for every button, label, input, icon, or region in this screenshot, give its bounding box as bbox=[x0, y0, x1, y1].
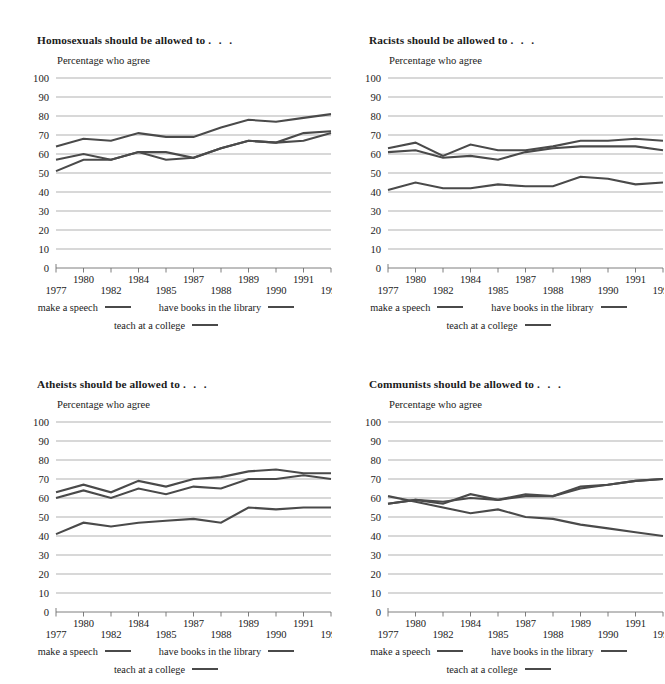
legend-row-primary: make a speechhave books in the library bbox=[332, 298, 665, 316]
x-axis-tick-label: 1984 bbox=[460, 274, 482, 285]
legend-line-swatch-icon bbox=[437, 650, 463, 653]
y-axis-tick-label: 90 bbox=[38, 436, 49, 447]
y-axis-tick-label: 10 bbox=[38, 588, 49, 599]
legend-row-primary: make a speechhave books in the library bbox=[0, 642, 332, 660]
legend-item-teach-at-a-college[interactable]: teach at a college bbox=[446, 320, 550, 331]
x-axis-tick-label: 1990 bbox=[597, 629, 618, 640]
x-axis-tick-label: 1993 bbox=[652, 629, 664, 640]
y-axis-tick-label: 70 bbox=[38, 130, 49, 141]
x-axis-tick-label: 1980 bbox=[405, 274, 426, 285]
y-axis-tick-label: 40 bbox=[38, 531, 49, 542]
legend-line-swatch-icon bbox=[105, 650, 131, 653]
y-axis-tick-label: 20 bbox=[370, 225, 381, 236]
legend-item-make-a-speech[interactable]: make a speech bbox=[370, 302, 463, 313]
y-axis-tick-label: 90 bbox=[370, 436, 381, 447]
y-axis-tick-label: 50 bbox=[370, 168, 381, 179]
x-axis-tick-label: 1982 bbox=[432, 285, 453, 296]
y-axis-tick-label: 10 bbox=[38, 244, 49, 255]
y-axis-tick-label: 80 bbox=[38, 455, 49, 466]
y-axis-tick-label: 90 bbox=[38, 92, 49, 103]
legend-line-swatch-icon bbox=[601, 650, 627, 653]
legend-item-teach-at-a-college[interactable]: teach at a college bbox=[446, 664, 550, 675]
legend-item-have-books-in-the-library[interactable]: have books in the library bbox=[491, 646, 626, 657]
x-axis-tick-label: 1993 bbox=[652, 285, 664, 296]
x-axis-tick-label: 1987 bbox=[515, 274, 536, 285]
chart-legend: make a speechhave books in the libraryte… bbox=[332, 298, 665, 334]
chart-svg: 0102030405060708090100197719801982198419… bbox=[0, 0, 332, 344]
y-axis-tick-label: 0 bbox=[376, 263, 381, 274]
legend-row-secondary: teach at a college bbox=[0, 660, 332, 678]
plot-area: 0102030405060708090100197719801982198419… bbox=[332, 0, 665, 344]
y-axis-tick-label: 0 bbox=[44, 263, 49, 274]
legend-item-make-a-speech[interactable]: make a speech bbox=[38, 646, 131, 657]
y-axis-tick-label: 30 bbox=[370, 550, 381, 561]
chart-legend: make a speechhave books in the libraryte… bbox=[332, 642, 665, 678]
y-axis-tick-label: 100 bbox=[365, 73, 381, 84]
y-axis-tick-label: 10 bbox=[370, 588, 381, 599]
legend-line-swatch-icon bbox=[192, 668, 218, 671]
series-line-teach-at-a-college bbox=[56, 508, 331, 535]
y-axis-tick-label: 30 bbox=[38, 206, 49, 217]
x-axis-tick-label: 1980 bbox=[405, 618, 426, 629]
legend-label: have books in the library bbox=[159, 302, 261, 313]
x-axis-tick-label: 1988 bbox=[542, 629, 563, 640]
x-axis-tick-label: 1988 bbox=[210, 629, 231, 640]
legend-line-swatch-icon bbox=[268, 306, 294, 309]
chart-svg: 0102030405060708090100197719801982198419… bbox=[332, 344, 664, 684]
x-axis-tick-label: 1982 bbox=[100, 285, 121, 296]
series-line-have-books-in-the-library bbox=[56, 131, 331, 160]
y-axis-tick-label: 60 bbox=[370, 493, 381, 504]
x-axis-tick-label: 1991 bbox=[293, 618, 314, 629]
y-axis-tick-label: 80 bbox=[370, 111, 381, 122]
x-axis-tick-label: 1991 bbox=[625, 618, 646, 629]
x-axis-tick-label: 1984 bbox=[128, 274, 150, 285]
plot-area: 0102030405060708090100197719801982198419… bbox=[332, 344, 665, 684]
figure-grid: Homosexuals should be allowed to. . . Pe… bbox=[0, 0, 665, 684]
legend-item-have-books-in-the-library[interactable]: have books in the library bbox=[491, 302, 626, 313]
legend-line-swatch-icon bbox=[437, 306, 463, 309]
legend-item-have-books-in-the-library[interactable]: have books in the library bbox=[159, 646, 294, 657]
y-axis-tick-label: 70 bbox=[370, 474, 381, 485]
y-axis-tick-label: 0 bbox=[44, 607, 49, 618]
x-axis-tick-label: 1990 bbox=[265, 629, 286, 640]
legend-label: have books in the library bbox=[491, 302, 593, 313]
legend-label: have books in the library bbox=[159, 646, 261, 657]
chart-legend: make a speechhave books in the libraryte… bbox=[0, 298, 332, 334]
legend-row-primary: make a speechhave books in the library bbox=[0, 298, 332, 316]
legend-item-make-a-speech[interactable]: make a speech bbox=[370, 646, 463, 657]
legend-item-make-a-speech[interactable]: make a speech bbox=[38, 302, 131, 313]
x-axis-tick-label: 1987 bbox=[183, 274, 204, 285]
x-axis-tick-label: 1977 bbox=[377, 285, 398, 296]
legend-item-teach-at-a-college[interactable]: teach at a college bbox=[114, 320, 218, 331]
y-axis-tick-label: 90 bbox=[370, 92, 381, 103]
y-axis-tick-label: 100 bbox=[365, 417, 381, 428]
chart-panel-homosexuals: Homosexuals should be allowed to. . . Pe… bbox=[0, 0, 332, 344]
legend-item-teach-at-a-college[interactable]: teach at a college bbox=[114, 664, 218, 675]
x-axis-tick-label: 1989 bbox=[570, 274, 591, 285]
y-axis-tick-label: 20 bbox=[38, 569, 49, 580]
legend-label: make a speech bbox=[370, 302, 430, 313]
x-axis-tick-label: 1982 bbox=[100, 629, 121, 640]
x-axis-tick-label: 1984 bbox=[128, 618, 150, 629]
plot-area: 0102030405060708090100197719801982198419… bbox=[0, 344, 332, 684]
legend-item-have-books-in-the-library[interactable]: have books in the library bbox=[159, 302, 294, 313]
y-axis-tick-label: 10 bbox=[370, 244, 381, 255]
x-axis-tick-label: 1988 bbox=[210, 285, 231, 296]
y-axis-tick-label: 40 bbox=[370, 531, 381, 542]
y-axis-tick-label: 100 bbox=[33, 417, 49, 428]
y-axis-tick-label: 50 bbox=[38, 512, 49, 523]
x-axis-tick-label: 1990 bbox=[597, 285, 618, 296]
x-axis-tick-label: 1989 bbox=[238, 274, 259, 285]
y-axis-tick-label: 60 bbox=[38, 149, 49, 160]
x-axis-tick-label: 1988 bbox=[542, 285, 563, 296]
y-axis-tick-label: 100 bbox=[33, 73, 49, 84]
y-axis-tick-label: 0 bbox=[376, 607, 381, 618]
x-axis-tick-label: 1980 bbox=[73, 618, 94, 629]
legend-row-secondary: teach at a college bbox=[332, 660, 665, 678]
legend-label: make a speech bbox=[370, 646, 430, 657]
x-axis-tick-label: 1989 bbox=[238, 618, 259, 629]
y-axis-tick-label: 60 bbox=[38, 493, 49, 504]
x-axis-tick-label: 1987 bbox=[183, 618, 204, 629]
plot-area: 0102030405060708090100197719801982198419… bbox=[0, 0, 332, 344]
legend-label: have books in the library bbox=[491, 646, 593, 657]
